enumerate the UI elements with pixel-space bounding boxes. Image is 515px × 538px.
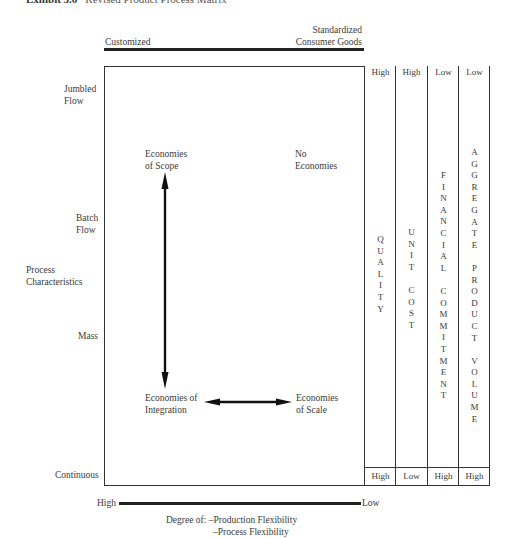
- bottom-axis-left-label: High: [97, 497, 116, 509]
- bottom-axis-right-label: Low: [362, 497, 379, 509]
- quality-top-value: High: [365, 67, 396, 77]
- horizontal-double-arrow-icon: [204, 399, 292, 406]
- vertical-double-arrow-icon: [162, 172, 169, 389]
- unit-cost-bottom-value: Low: [396, 471, 427, 481]
- quality-label: Q U A L I T Y: [365, 234, 396, 315]
- bottom-axis-caption: Degree of: –Production Flexibility –Proc…: [166, 514, 297, 538]
- financial-commitment-bottom-value: High: [428, 471, 459, 481]
- quality-bottom-value: High: [365, 471, 396, 481]
- financial-commitment-label: F I N A N C I A L C O M M I T M E N T: [428, 170, 459, 402]
- bottom-row-baseline: [364, 485, 490, 486]
- unit-cost-top-value: High: [396, 67, 427, 77]
- aggregate-product-volume-top-value: Low: [459, 67, 490, 77]
- bottom-row-divider: [364, 467, 490, 468]
- unit-cost-label: U N I T C O S T: [396, 227, 427, 331]
- aggregate-product-volume-label: A G G R E G A T E P R O D U C T V O L U …: [459, 147, 490, 425]
- financial-commitment-top-value: Low: [428, 67, 459, 77]
- bottom-axis-bar: [119, 502, 361, 505]
- aggregate-product-volume-bottom-value: High: [459, 471, 490, 481]
